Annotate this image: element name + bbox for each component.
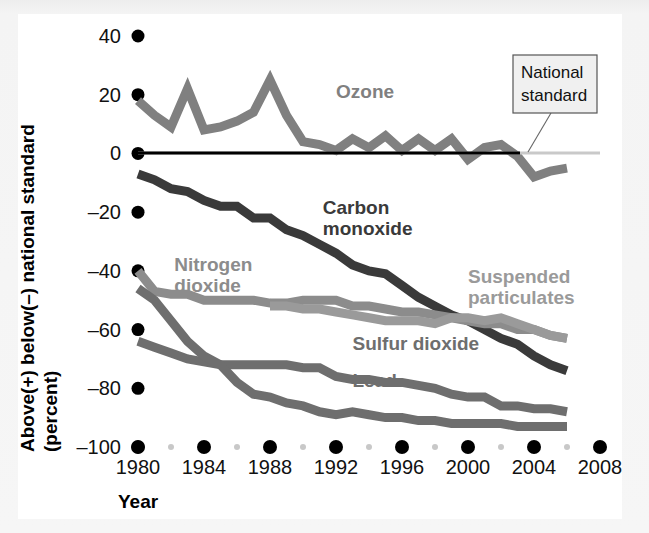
- y-tick-label: 0: [110, 142, 121, 164]
- callout-leader-line: [528, 113, 551, 152]
- y-axis-title-line-2: (percent): [40, 371, 61, 452]
- x-tick-dot-minor: [366, 444, 372, 450]
- x-tick-dot-minor: [168, 444, 174, 450]
- x-tick-label: 2008: [578, 456, 623, 478]
- x-tick-dot: [263, 440, 277, 454]
- national-standard-callout: National standard: [513, 55, 597, 152]
- y-tick-label: –100: [77, 436, 122, 458]
- y-tick-label: 40: [99, 25, 121, 47]
- x-axis-title: Year: [118, 491, 159, 512]
- y-tick-label: –60: [88, 319, 121, 341]
- x-tick-dot: [329, 440, 343, 454]
- series-label-nitrogen-dioxide: Nitrogen: [174, 254, 252, 275]
- x-tick-label: 1992: [314, 456, 359, 478]
- x-tick-dot: [395, 440, 409, 454]
- x-tick-dot: [197, 440, 211, 454]
- y-tick-label: –20: [88, 201, 121, 223]
- y-axis: 40200–20–40–60–80–100: [77, 25, 145, 458]
- y-axis-title-line-1: Above(+) below(–) national standard: [17, 124, 38, 452]
- x-tick-dot-minor: [300, 444, 306, 450]
- series-label-sulfur-dioxide: Sulfur dioxide: [353, 333, 480, 354]
- y-tick-label: –80: [88, 377, 121, 399]
- callout-line-2: standard: [521, 86, 587, 105]
- x-tick-label: 2004: [512, 456, 557, 478]
- callout-line-1: National: [521, 63, 583, 82]
- x-tick-dot-minor: [498, 444, 504, 450]
- x-tick-label: 1996: [380, 456, 425, 478]
- x-tick-label: 1988: [248, 456, 293, 478]
- y-tick-dot: [132, 382, 145, 395]
- series-label-carbon-monoxide: Carbon: [323, 197, 390, 218]
- series-label-suspended-particulates: Suspended: [468, 266, 570, 287]
- x-tick-dot: [527, 440, 541, 454]
- y-tick-label: 20: [99, 84, 121, 106]
- series-label-carbon-monoxide: monoxide: [323, 218, 413, 239]
- series-label-ozone: Ozone: [336, 81, 394, 102]
- y-tick-dot: [132, 323, 145, 336]
- x-tick-dot-minor: [564, 444, 570, 450]
- series-label-nitrogen-dioxide: dioxide: [174, 275, 241, 296]
- x-tick-dot: [593, 440, 607, 454]
- x-tick-dot-minor: [234, 444, 240, 450]
- x-tick-label: 1984: [182, 456, 227, 478]
- y-tick-label: –40: [88, 260, 121, 282]
- series-label-suspended-particulates: particulates: [468, 287, 575, 308]
- y-tick-dot: [132, 206, 145, 219]
- x-tick-label: 1980: [116, 456, 161, 478]
- series-label-lead: Lead: [353, 370, 397, 391]
- chart-figure: 40200–20–40–60–80–100 198019841988199219…: [0, 0, 649, 533]
- x-tick-dot-minor: [432, 444, 438, 450]
- air-pollution-line-chart: 40200–20–40–60–80–100 198019841988199219…: [0, 0, 649, 533]
- x-tick-dot: [461, 440, 475, 454]
- x-axis: 19801984198819921996200020042008: [116, 440, 623, 478]
- x-tick-label: 2000: [446, 456, 491, 478]
- x-tick-dot: [131, 440, 145, 454]
- y-tick-dot: [132, 30, 145, 43]
